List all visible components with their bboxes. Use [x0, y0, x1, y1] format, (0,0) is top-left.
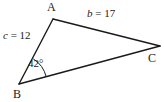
side-equals-b: = — [93, 7, 105, 19]
side-value-b: 17 — [104, 7, 115, 19]
triangle-figure: A B C b = 17 c = 12 42° — [0, 0, 164, 102]
side-equals-c: = — [8, 29, 20, 41]
side-length-label-b: b = 17 — [87, 8, 115, 19]
triangle-side-b — [53, 19, 160, 46]
side-length-label-c: c = 12 — [3, 30, 31, 41]
triangle-drawing — [0, 0, 164, 102]
angle-measure-label-b: 42° — [28, 58, 43, 69]
vertex-label-b: B — [13, 88, 21, 100]
side-value-c: 12 — [20, 29, 31, 41]
vertex-label-c: C — [148, 52, 156, 64]
vertex-label-a: A — [47, 1, 56, 13]
